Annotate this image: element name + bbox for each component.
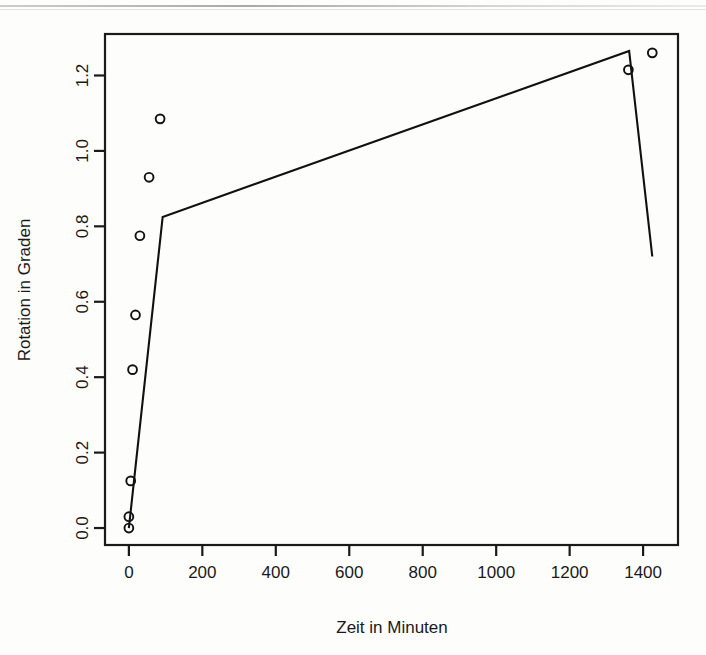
- fitted-line-series: [129, 51, 652, 528]
- x-tick-label: 400: [262, 563, 290, 582]
- x-axis-title: Zeit in Minuten: [336, 618, 448, 637]
- x-axis-tick-labels: 0200400600800100012001400: [124, 563, 662, 582]
- y-tick-label: 0.6: [74, 290, 93, 314]
- plot-frame: [105, 34, 678, 545]
- scatter-plot: 0200400600800100012001400 0.00.20.40.60.…: [0, 0, 706, 655]
- data-point: [131, 311, 140, 320]
- y-tick-label: 1.0: [74, 139, 93, 163]
- x-tick-label: 600: [335, 563, 363, 582]
- x-tick-label: 1400: [624, 563, 662, 582]
- x-tick-label: 800: [409, 563, 437, 582]
- x-tick-label: 200: [188, 563, 216, 582]
- data-point: [128, 365, 137, 374]
- chart-figure: 0200400600800100012001400 0.00.20.40.60.…: [0, 0, 706, 655]
- data-point-markers: [124, 48, 656, 532]
- fitted-line: [129, 51, 652, 528]
- data-point: [145, 173, 154, 182]
- y-tick-label: 0.4: [74, 365, 93, 389]
- data-point: [648, 48, 657, 57]
- data-point: [156, 114, 165, 123]
- x-tick-label: 0: [124, 563, 133, 582]
- y-tick-label: 0.8: [74, 215, 93, 239]
- y-tick-label: 0.0: [74, 516, 93, 540]
- data-point: [135, 231, 144, 240]
- x-tick-label: 1000: [477, 563, 515, 582]
- x-axis-ticks: [129, 545, 643, 556]
- y-tick-label: 0.2: [74, 441, 93, 465]
- y-tick-label: 1.2: [74, 64, 93, 88]
- x-tick-label: 1200: [551, 563, 589, 582]
- y-axis-tick-labels: 0.00.20.40.60.81.01.2: [74, 64, 93, 540]
- y-axis-ticks: [94, 75, 105, 528]
- y-axis-title: Rotation in Graden: [15, 219, 34, 362]
